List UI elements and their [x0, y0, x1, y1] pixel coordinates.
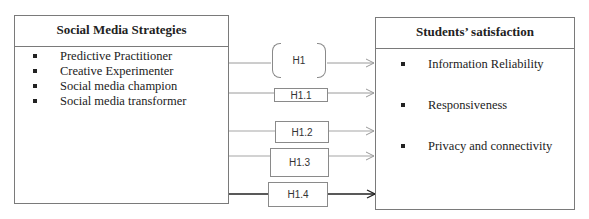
bullet-icon [401, 103, 405, 107]
list-item: Predictive Practitioner [33, 49, 186, 64]
hypothesis-h1-4: H1.4 [268, 182, 328, 207]
satisfaction-list: Information Reliability Responsiveness P… [401, 57, 552, 154]
students-satisfaction-title: Students’ satisfaction [376, 18, 574, 49]
list-item: Responsiveness [401, 98, 552, 113]
list-item: Privacy and connectivity [401, 139, 552, 154]
bullet-icon [401, 144, 405, 148]
bullet-icon [401, 62, 405, 66]
bullet-icon [33, 54, 37, 58]
bullet-icon [33, 69, 37, 73]
list-item: Creative Experimenter [33, 64, 186, 79]
students-satisfaction-box: Students’ satisfaction Information Relia… [375, 17, 575, 210]
social-media-strategies-box: Social Media Strategies Predictive Pract… [14, 15, 229, 204]
list-item: Social media transformer [33, 94, 186, 109]
hypothesis-h1: H1 [271, 42, 327, 79]
list-item: Information Reliability [401, 57, 552, 72]
hypothesis-h1-3: H1.3 [270, 148, 329, 177]
hypothesis-h1-2: H1.2 [275, 121, 329, 143]
hypothesis-h1-1: H1.1 [274, 88, 328, 102]
bullet-icon [33, 99, 37, 103]
social-media-strategies-title: Social Media Strategies [15, 16, 228, 47]
strategies-list: Predictive Practitioner Creative Experim… [33, 49, 186, 109]
bullet-icon [33, 84, 37, 88]
list-item: Social media champion [33, 79, 186, 94]
